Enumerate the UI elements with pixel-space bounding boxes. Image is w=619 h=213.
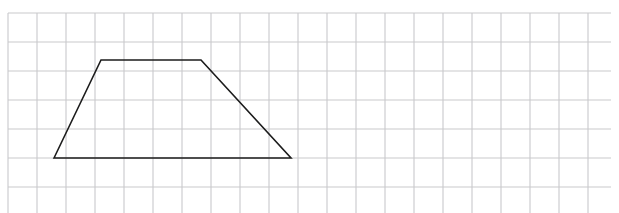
trapezoid-shape — [54, 60, 291, 158]
figure-canvas — [0, 0, 619, 213]
grid-lines — [8, 13, 611, 213]
grid-and-trapezoid-svg — [0, 0, 619, 213]
